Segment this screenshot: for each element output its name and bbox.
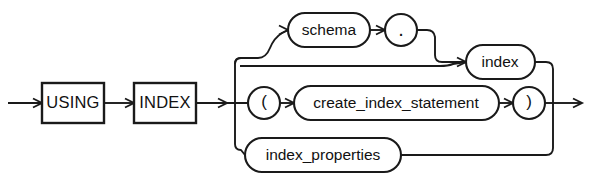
node-create-index-statement[interactable]: create_index_statement [294,86,499,120]
node-period[interactable]: . [385,14,417,46]
rail-bypass-to-index [240,62,466,66]
right-paren-label: ) [526,92,532,111]
rail-period-to-index [417,30,466,62]
node-right-paren[interactable]: ) [513,87,545,119]
index-properties-label: index_properties [266,146,381,163]
index-keyword-label: INDEX [139,93,190,111]
period-label: . [398,18,404,40]
arrowhead-schema [279,26,288,35]
rail-left-bus [235,58,247,155]
node-index-properties[interactable]: index_properties [245,138,401,172]
railroad-diagram: USING INDEX schema . index ( [0,0,595,191]
rail-bus-top-corner [235,58,241,64]
node-index[interactable]: index [466,45,535,79]
schema-label: schema [302,21,357,38]
using-label: USING [46,93,99,111]
syntax-diagram-canvas: USING INDEX schema . index ( [0,0,595,191]
node-schema[interactable]: schema [288,13,370,47]
index-label: index [481,53,518,70]
node-using-keyword[interactable]: USING [42,83,104,123]
node-index-keyword[interactable]: INDEX [134,83,196,123]
left-paren-label: ( [261,92,267,111]
create-index-statement-label: create_index_statement [313,94,479,111]
rail-to-schema [247,30,288,58]
node-left-paren[interactable]: ( [248,87,280,119]
